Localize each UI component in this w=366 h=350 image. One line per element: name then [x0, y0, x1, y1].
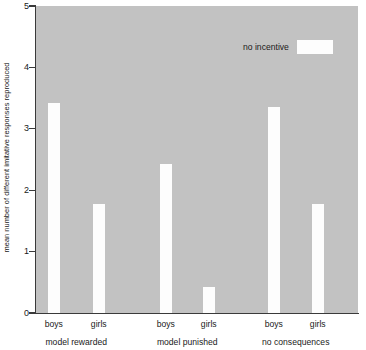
y-axis-line	[35, 5, 36, 314]
x-tick-label-girls: girls	[74, 320, 124, 329]
y-tick-label: 5	[18, 2, 29, 11]
y-tick-label: 0	[18, 309, 29, 318]
x-group-label: model punished	[127, 338, 247, 347]
legend: no incentive	[243, 40, 333, 54]
y-axis-title: mean number of different imitative respo…	[0, 0, 14, 315]
y-tick-label: 1	[18, 247, 29, 256]
bar	[93, 204, 106, 313]
bar	[160, 164, 173, 313]
bar	[268, 107, 281, 313]
x-group-label: model rewarded	[16, 338, 136, 347]
x-tick-label-girls: girls	[293, 320, 343, 329]
bar-chart: mean number of different imitative respo…	[0, 0, 366, 350]
legend-swatch-no-incentive	[297, 40, 333, 54]
bar	[203, 287, 216, 313]
y-tick-mark	[29, 312, 36, 313]
y-tick-label: 2	[18, 186, 29, 195]
x-axis-line	[35, 313, 359, 314]
y-tick-mark	[29, 128, 36, 129]
x-tick-label-boys: boys	[29, 320, 79, 329]
y-tick-label: 3	[18, 124, 29, 133]
x-group-label: no consequences	[236, 338, 356, 347]
legend-label-no-incentive: no incentive	[243, 42, 289, 52]
y-tick-mark	[29, 67, 36, 68]
y-tick-label: 4	[18, 63, 29, 72]
y-tick-mark	[29, 190, 36, 191]
x-tick-label-girls: girls	[184, 320, 234, 329]
bar	[312, 204, 325, 313]
y-tick-mark	[29, 251, 36, 252]
x-tick-label-boys: boys	[249, 320, 299, 329]
y-tick-mark	[29, 5, 36, 6]
y-axis-title-text: mean number of different imitative respo…	[3, 63, 12, 253]
bar	[48, 103, 61, 313]
